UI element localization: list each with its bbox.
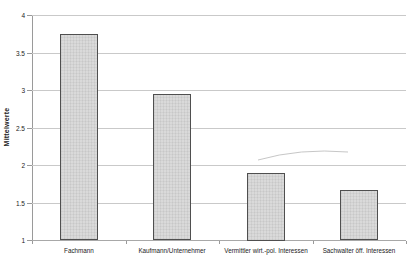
y-axis-tick-label: 2 — [5, 162, 25, 169]
y-axis-tick-label: 1 — [5, 237, 25, 244]
x-axis-tick — [126, 241, 127, 244]
y-axis-tick-label: 3 — [5, 87, 25, 94]
y-axis-tick — [27, 203, 32, 204]
x-axis-tick — [313, 241, 314, 244]
y-axis-tick — [27, 15, 32, 16]
y-axis-tick-label: 3.5 — [5, 50, 25, 57]
y-axis-tick — [27, 165, 32, 166]
bar-1 — [60, 34, 98, 240]
x-axis-tick — [219, 241, 220, 244]
x-axis-tick — [32, 241, 33, 244]
scan-artifact-line — [256, 146, 352, 164]
bar-2 — [153, 94, 191, 240]
x-axis-tick — [406, 241, 407, 244]
gridline — [32, 15, 406, 16]
y-axis-tick-label: 4 — [5, 12, 25, 19]
bar-3 — [247, 173, 285, 241]
bar-chart: Mittelwerte 43.532.521.51FachmannKaufman… — [0, 0, 413, 264]
y-axis-tick — [27, 90, 32, 91]
y-axis-tick-label: 1.5 — [5, 200, 25, 207]
y-axis-tick — [27, 53, 32, 54]
bar-4 — [340, 190, 378, 240]
y-axis-tick-label: 2.5 — [5, 125, 25, 132]
x-axis-category-label: Sachwalter öff. Interessen — [304, 247, 413, 255]
y-axis-tick — [27, 128, 32, 129]
